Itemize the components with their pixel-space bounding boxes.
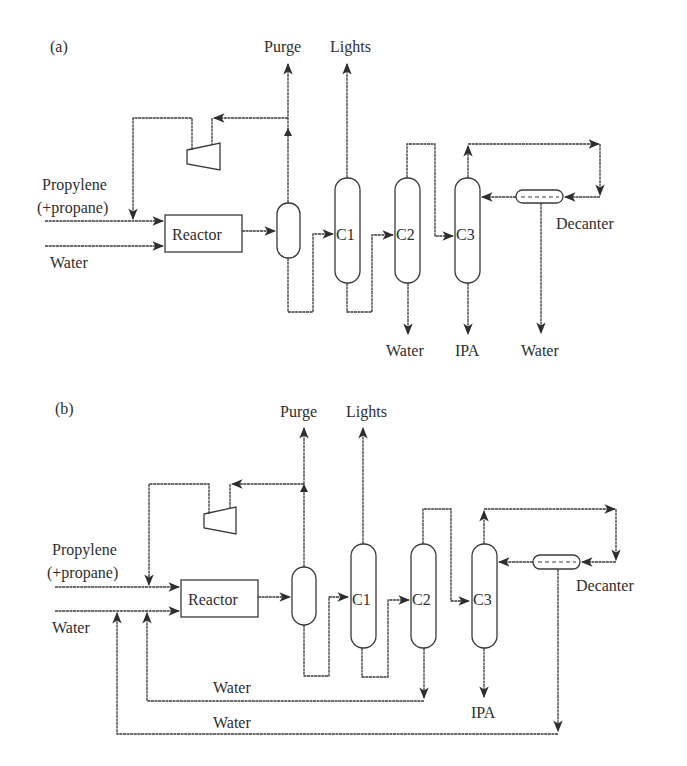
panel-a-label: (a) — [50, 38, 68, 56]
c2-water-recycle-label: Water — [213, 679, 251, 696]
lights-label: Lights — [346, 403, 387, 421]
feed-propane-label: (+propane) — [47, 564, 118, 582]
c3-label: C3 — [473, 591, 492, 608]
c2-water-label: Water — [386, 342, 424, 359]
c2-label: C2 — [412, 591, 431, 608]
lights-label: Lights — [330, 38, 371, 56]
c1-label: C1 — [336, 226, 355, 243]
feed-water-label: Water — [52, 619, 90, 636]
panel-a: (a) Propylene (+propane) Water Reactor P… — [37, 38, 614, 359]
c1-label: C1 — [352, 591, 371, 608]
compressor-recycle-stream — [149, 484, 209, 585]
feed-water-label: Water — [50, 254, 88, 271]
ipa-label: IPA — [471, 704, 496, 721]
process-flow-diagram: (a) Propylene (+propane) Water Reactor P… — [0, 0, 687, 766]
panel-b-label: (b) — [55, 400, 74, 418]
purge-label: Purge — [264, 38, 301, 56]
feed-propylene-label: Propylene — [42, 176, 107, 194]
c3-label: C3 — [456, 226, 475, 243]
purge-label: Purge — [280, 403, 317, 421]
ipa-label: IPA — [455, 342, 480, 359]
compressor-recycle-stream — [133, 118, 192, 219]
decanter-water-recycle-label: Water — [213, 714, 251, 731]
panel-b: (b) Propylene (+propane) Water Reactor P… — [47, 400, 634, 734]
c2-label: C2 — [396, 226, 415, 243]
decanter-label: Decanter — [576, 577, 634, 594]
decanter-water-label: Water — [521, 342, 559, 359]
reactor-label: Reactor — [188, 591, 238, 608]
decanter-label: Decanter — [556, 215, 614, 232]
flash-drum — [292, 567, 316, 625]
flash-vapor-arrow-icon — [284, 128, 292, 136]
flash-drum — [277, 203, 300, 258]
feed-propane-label: (+propane) — [37, 199, 108, 217]
feed-propylene-label: Propylene — [52, 541, 117, 559]
flash-vapor-arrow-icon — [300, 484, 308, 492]
reactor-label: Reactor — [172, 226, 222, 243]
c2-water-recycle-stream — [147, 613, 424, 701]
